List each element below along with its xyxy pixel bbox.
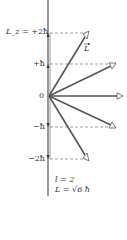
level-label-0: 0 xyxy=(39,92,44,100)
level-label-plus-1: +ħ xyxy=(33,60,45,68)
l-vectors xyxy=(49,37,117,155)
level-label-plus-2: L_z = +2ħ xyxy=(6,28,48,36)
arrowhead-icon xyxy=(117,93,123,99)
quantum-number-label: l = 2 xyxy=(55,176,74,184)
vector-label: L xyxy=(84,45,89,53)
level-label-minus-2: −2ħ xyxy=(28,155,45,163)
level-label-minus-1: −ħ xyxy=(33,123,45,131)
magnitude-label: L = √6 ħ xyxy=(55,186,90,194)
